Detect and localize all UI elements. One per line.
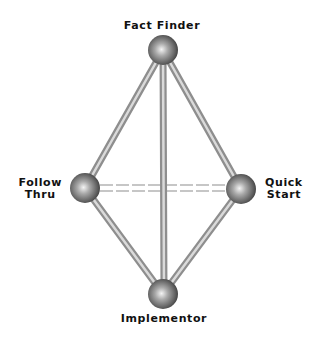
label-quick-start: Quick Start [265, 177, 303, 201]
label-follow-thru-line2: Thru [19, 189, 63, 201]
diagram-canvas: Fact Finder Follow Thru Quick Start Impl… [0, 0, 319, 339]
edge-quick-start-implementor [163, 189, 241, 294]
label-fact-finder: Fact Finder [124, 20, 200, 32]
label-follow-thru: Follow Thru [19, 177, 63, 201]
node-implementor-ball [148, 279, 178, 309]
edge-fact-finder-follow-thru [85, 50, 163, 188]
label-fact-finder-text: Fact Finder [124, 19, 200, 32]
edge-fact-finder-implementor [163, 50, 164, 294]
node-follow-thru-ball [70, 173, 100, 203]
edge-follow-thru-implementor [85, 188, 163, 294]
node-quick-start-ball [226, 174, 256, 204]
label-quick-start-line2: Start [265, 189, 303, 201]
diagram-svg [0, 0, 319, 339]
label-implementor: Implementor [121, 313, 207, 325]
edge-fact-finder-quick-start [163, 50, 241, 189]
label-implementor-text: Implementor [121, 312, 207, 325]
node-fact-finder-ball [148, 35, 178, 65]
